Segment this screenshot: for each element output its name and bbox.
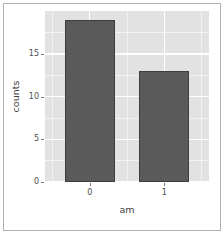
x-tick-label: 0	[70, 189, 110, 197]
y-tick-mark	[41, 54, 44, 55]
bar	[139, 71, 189, 182]
gridline-minor-vertical	[52, 11, 53, 182]
y-axis-title: counts	[10, 11, 22, 182]
gridline-minor-vertical	[201, 11, 202, 182]
x-axis-title: am	[45, 204, 209, 216]
bar-chart: 051015 01 counts am	[4, 4, 222, 232]
gridline-minor-vertical	[127, 11, 128, 182]
bar	[65, 20, 115, 182]
figure-frame: 051015 01 counts am	[3, 3, 221, 231]
y-tick-mark	[41, 139, 44, 140]
x-tick-label: 1	[144, 189, 184, 197]
x-tick-mark	[90, 183, 91, 186]
x-tick-mark	[164, 183, 165, 186]
plot-panel	[45, 11, 209, 182]
y-tick-mark	[41, 182, 44, 183]
y-tick-mark	[41, 97, 44, 98]
